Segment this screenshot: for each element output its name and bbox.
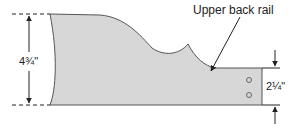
rail-profile-shape xyxy=(50,14,262,105)
rail-drawing xyxy=(0,0,302,135)
part-label: Upper back rail xyxy=(193,4,274,16)
end-height-label: 2¼" xyxy=(266,81,285,92)
callout-leader-arrow-icon xyxy=(211,17,240,71)
overall-height-label: 4¾" xyxy=(19,55,38,68)
